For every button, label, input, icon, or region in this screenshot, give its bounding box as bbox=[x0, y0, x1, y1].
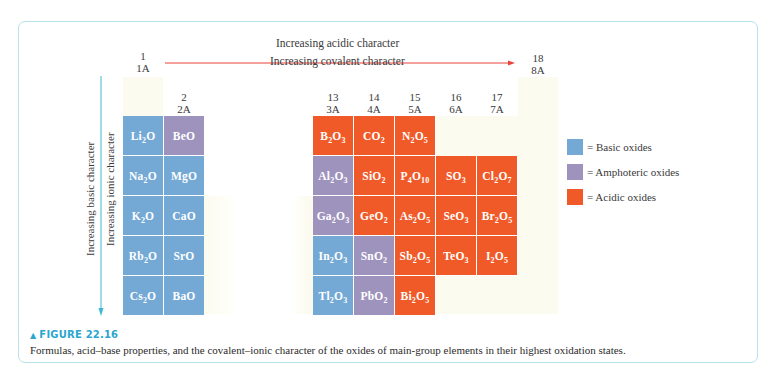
legend-acidic: = Acidic oxides bbox=[567, 189, 656, 205]
figure-caption: Formulas, acid–base properties, and the … bbox=[30, 344, 626, 356]
oxide-cell-seo3: SeO3 bbox=[436, 196, 476, 235]
triangle-icon: ▲ bbox=[30, 331, 36, 340]
group-1-header: 11A bbox=[123, 50, 163, 74]
group-2-background bbox=[204, 196, 234, 314]
oxide-cell-sio2: SiO2 bbox=[354, 156, 394, 195]
oxide-cell-bao: BaO bbox=[164, 276, 204, 315]
ionic-character-label: Increasing ionic character bbox=[104, 132, 116, 246]
group-1-background bbox=[123, 77, 163, 116]
oxide-cell-sno2: SnO2 bbox=[354, 236, 394, 275]
oxide-cell-teo3: TeO3 bbox=[436, 236, 476, 275]
oxide-cell-sro: SrO bbox=[164, 236, 204, 275]
oxide-cell-na2o: Na2O bbox=[123, 156, 163, 195]
oxide-cell-cl2o7: Cl2O7 bbox=[477, 156, 517, 195]
group-16-17-background bbox=[436, 116, 518, 156]
period-6-right-background bbox=[436, 276, 518, 314]
oxide-cell-ga2o3: Ga2O3 bbox=[313, 196, 353, 235]
oxide-cell-sb2o5: Sb2O5 bbox=[395, 236, 435, 275]
oxide-cell-pbo2: PbO2 bbox=[354, 276, 394, 315]
oxide-cell-mgo: MgO bbox=[164, 156, 204, 195]
group-17-header: 177A bbox=[477, 91, 517, 115]
group-15-header: 155A bbox=[395, 91, 435, 115]
group-18-header: 188A bbox=[518, 52, 558, 76]
acidic-character-label: Increasing acidic character bbox=[276, 37, 399, 49]
legend-basic: = Basic oxides bbox=[567, 139, 652, 155]
group-2-header: 22A bbox=[164, 91, 204, 115]
oxide-cell-cao: CaO bbox=[164, 196, 204, 235]
oxide-cell-n2o5: N2O5 bbox=[395, 116, 435, 155]
basic-character-label: Increasing basic character bbox=[84, 142, 96, 256]
oxide-cell-br2o5: Br2O5 bbox=[477, 196, 517, 235]
oxide-cell-cs2o: Cs2O bbox=[123, 276, 163, 315]
oxide-cell-b2o3: B2O3 bbox=[313, 116, 353, 155]
legend-amphoteric: = Amphoteric oxides bbox=[567, 164, 679, 180]
oxide-cell-as2o5: As2O5 bbox=[395, 196, 435, 235]
oxide-cell-li2o: Li2O bbox=[123, 116, 163, 155]
transition-gap-background bbox=[290, 196, 313, 314]
oxide-cell-i2o5: I2O5 bbox=[477, 236, 517, 275]
oxide-cell-tl2o3: Tl2O3 bbox=[313, 276, 353, 315]
group-14-header: 144A bbox=[354, 91, 394, 115]
oxide-cell-bi2o5: Bi2O5 bbox=[395, 276, 435, 315]
acidic-swatch bbox=[567, 189, 583, 205]
amphoteric-swatch bbox=[567, 164, 583, 180]
covalent-character-label: Increasing covalent character bbox=[270, 55, 405, 67]
oxide-cell-al2o3: Al2O3 bbox=[313, 156, 353, 195]
oxide-cell-geo2: GeO2 bbox=[354, 196, 394, 235]
oxide-cell-k2o: K2O bbox=[123, 196, 163, 235]
group-13-header: 133A bbox=[313, 91, 353, 115]
oxide-cell-so3: SO3 bbox=[436, 156, 476, 195]
oxide-cell-p4o10: P4O10 bbox=[395, 156, 435, 195]
group-16-header: 166A bbox=[436, 91, 476, 115]
oxide-cell-rb2o: Rb2O bbox=[123, 236, 163, 275]
oxide-cell-beo: BeO bbox=[164, 116, 204, 155]
oxide-cell-co2: CO2 bbox=[354, 116, 394, 155]
figure-label: ▲FIGURE 22.16 bbox=[30, 329, 118, 340]
group-18-background bbox=[518, 77, 558, 314]
basic-swatch bbox=[567, 139, 583, 155]
oxide-cell-in2o3: In2O3 bbox=[313, 236, 353, 275]
